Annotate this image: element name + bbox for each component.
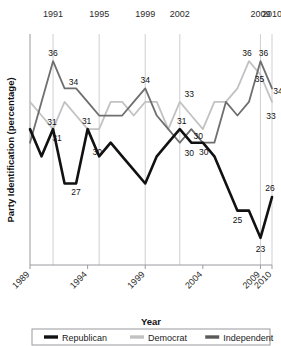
top-axis-label: 2010 <box>262 9 281 19</box>
data-label: 27 <box>71 187 81 197</box>
y-axis-title: Party Identification (percentage) <box>5 77 16 222</box>
legend-label-democrat: Democrat <box>148 333 188 343</box>
data-label: 30 <box>194 131 204 141</box>
chart-container: 199119951999200220092010 198919941999200… <box>0 0 281 346</box>
data-label: 31 <box>47 117 57 127</box>
data-label: 34 <box>69 77 79 87</box>
data-label: 36 <box>242 48 252 58</box>
data-label: 36 <box>259 48 269 58</box>
data-label: 31 <box>82 116 92 126</box>
data-label: 30 <box>199 147 209 157</box>
party-identification-line-chart: 199119951999200220092010 198919941999200… <box>0 0 281 346</box>
data-label: 25 <box>233 215 243 225</box>
data-label: 30 <box>185 148 195 158</box>
data-label: 34 <box>141 75 151 85</box>
data-label: 26 <box>265 183 275 193</box>
top-axis-label: 1991 <box>43 9 63 19</box>
data-label: 33 <box>185 89 195 99</box>
x-axis-title: Year <box>141 316 161 327</box>
data-label: 33 <box>266 111 276 121</box>
data-label: 30 <box>92 147 102 157</box>
legend: RepublicanDemocratIndependent <box>44 333 274 343</box>
top-axis-label: 2002 <box>170 9 190 19</box>
top-axis-label: 1995 <box>89 9 109 19</box>
top-axis-label: 1999 <box>135 9 155 19</box>
data-label: 36 <box>48 48 58 58</box>
data-label: 31 <box>177 116 187 126</box>
chart-background <box>0 0 281 346</box>
legend-label-republican: Republican <box>62 333 107 343</box>
data-label: 35 <box>255 74 265 84</box>
data-label: 23 <box>256 244 266 254</box>
data-label: 31 <box>52 133 62 143</box>
data-label: 34 <box>273 86 281 96</box>
legend-label-independent: Independent <box>223 333 274 343</box>
